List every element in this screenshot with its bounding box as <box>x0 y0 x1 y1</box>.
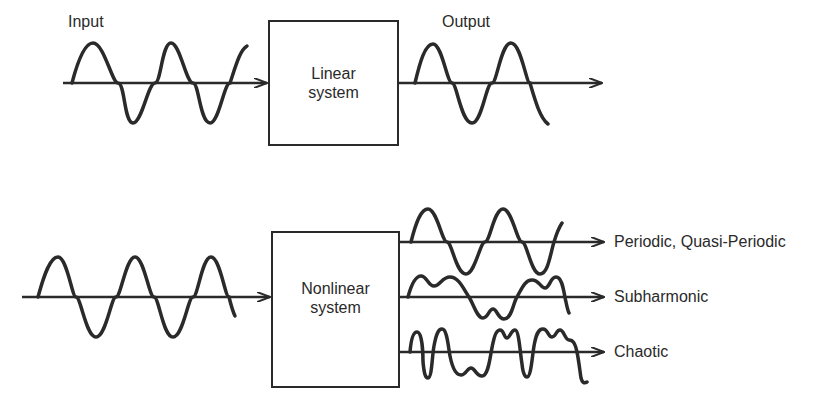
nonlinear-system-line2: system <box>272 298 399 317</box>
linear-system-line2: system <box>269 83 398 102</box>
diagram-graphics <box>0 0 835 402</box>
linear-system-line1: Linear <box>269 64 398 83</box>
chaotic-output-label: Chaotic <box>614 343 668 361</box>
periodic-output-signal <box>399 209 604 274</box>
input-label: Input <box>68 13 104 31</box>
linear-output-signal <box>398 43 602 124</box>
linear-system-label: Linear system <box>269 64 398 102</box>
output-label: Output <box>442 13 490 31</box>
linear-input-signal <box>63 43 267 123</box>
subharmonic-output-label: Subharmonic <box>614 288 708 306</box>
subharmonic-output-signal <box>399 276 604 319</box>
nonlinear-system-line1: Nonlinear <box>272 279 399 298</box>
nonlinear-system-label: Nonlinear system <box>272 279 399 317</box>
periodic-output-label: Periodic, Quasi-Periodic <box>614 233 786 251</box>
diagram-canvas: Input Output Linear system Nonlinear sys… <box>0 0 835 402</box>
nonlinear-input-signal <box>22 257 270 337</box>
chaotic-output-signal <box>399 329 604 383</box>
